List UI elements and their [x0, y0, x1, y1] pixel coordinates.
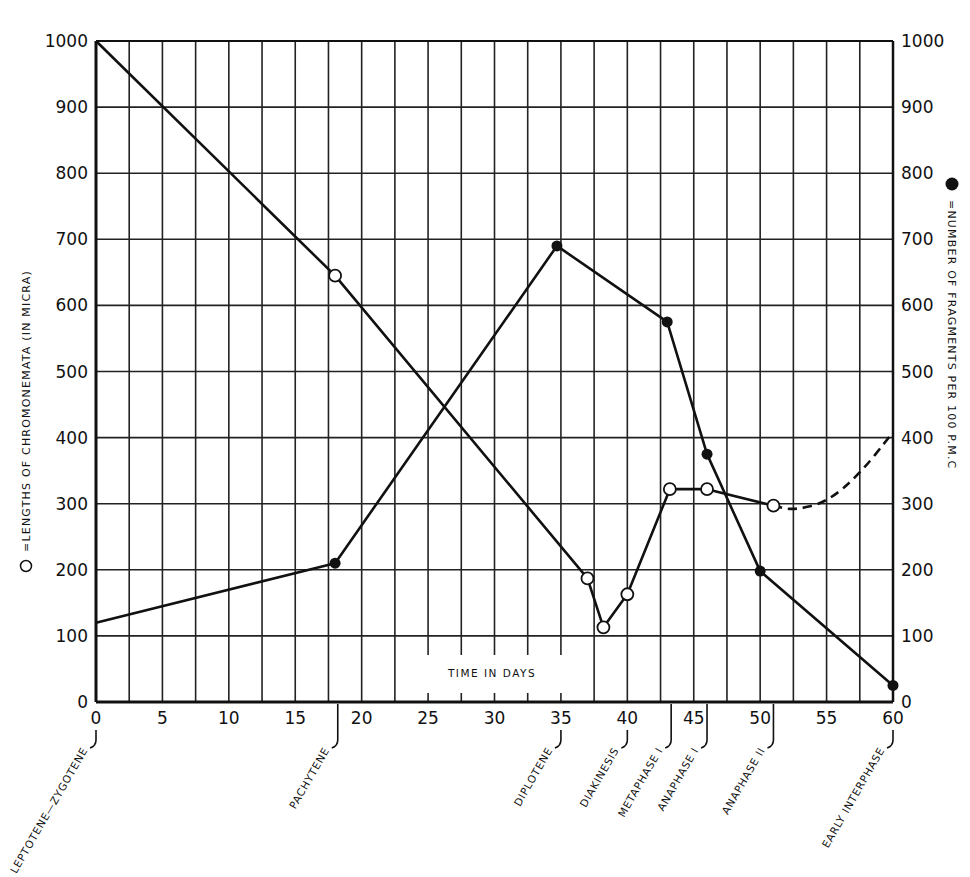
stage-leader-line [665, 704, 671, 748]
open-circle-point [621, 588, 633, 600]
grid-lines [96, 41, 893, 702]
stage-leader-line [887, 730, 893, 748]
open-circle-point [664, 483, 676, 495]
left-tick-label: 1000 [45, 31, 88, 51]
data-point-markers [329, 240, 898, 691]
filled-circle-point [888, 680, 899, 691]
x-axis-ticks: 051015202530354045505560 [91, 708, 904, 728]
x-tick-label: 10 [218, 708, 240, 728]
left-axis-title: =LENGTHS OF CHROMONEMATA (IN MICRA) [20, 270, 33, 552]
left-tick-label: 200 [56, 560, 88, 580]
x-tick-label: 5 [157, 708, 168, 728]
x-tick-label: 15 [284, 708, 306, 728]
stage-marker: DIPLOTENE [511, 730, 561, 808]
right-tick-label: 700 [901, 229, 933, 249]
right-y-axis-ticks: 01002003004005006007008009001000 [901, 31, 944, 712]
x-tick-label: 50 [749, 708, 771, 728]
right-axis-title-group: =NUMBER OF FRAGMENTS PER 100 P.M.C [945, 178, 959, 470]
open-circle-point [581, 572, 593, 584]
x-tick-label: 55 [816, 708, 838, 728]
left-tick-label: 600 [56, 295, 88, 315]
x-tick-label: 45 [683, 708, 705, 728]
stage-label: PACHYTENE [287, 745, 332, 811]
right-tick-label: 100 [901, 626, 933, 646]
stage-leader-line [621, 730, 627, 748]
right-tick-label: 1000 [901, 31, 944, 51]
filled-circle-point [755, 566, 766, 577]
right-tick-label: 800 [901, 163, 933, 183]
filled-circle-point [702, 449, 713, 460]
left-tick-label: 100 [56, 626, 88, 646]
x-tick-label: 30 [484, 708, 506, 728]
open-circle-point [701, 483, 713, 495]
open-circle-point [329, 270, 341, 282]
open-circle-point [597, 621, 609, 633]
x-tick-label: 20 [351, 708, 373, 728]
filled-circle-point [551, 240, 562, 251]
open-circle-point [767, 500, 779, 512]
stage-label: EARLY INTERPHASE [819, 745, 886, 850]
stage-leader-line [90, 730, 96, 748]
stage-label: ANAPHASE II [719, 745, 767, 816]
left-tick-label: 700 [56, 229, 88, 249]
filled-circle-point [330, 558, 341, 569]
filled-circle-legend-icon [946, 178, 959, 191]
right-tick-label: 400 [901, 428, 933, 448]
stage-leader-line [332, 704, 338, 748]
left-tick-label: 0 [77, 692, 88, 712]
x-tick-label: 60 [882, 708, 904, 728]
open-circle-legend-icon [21, 561, 32, 572]
left-tick-label: 400 [56, 428, 88, 448]
stage-label: DIPLOTENE [511, 745, 554, 808]
right-tick-label: 200 [901, 560, 933, 580]
x-axis-title: TIME IN DAYS [447, 667, 536, 679]
chromonemata-chart: 01002003004005006007008009001000 0100200… [0, 0, 970, 877]
right-axis-title: =NUMBER OF FRAGMENTS PER 100 P.M.C [945, 200, 958, 469]
right-tick-label: 500 [901, 362, 933, 382]
left-tick-label: 500 [56, 362, 88, 382]
left-axis-title-group: =LENGTHS OF CHROMONEMATA (IN MICRA) [20, 270, 33, 571]
chromonemata-length-dashed-extension [773, 432, 893, 509]
right-tick-label: 300 [901, 494, 933, 514]
filled-circle-point [662, 316, 673, 327]
left-tick-label: 800 [56, 163, 88, 183]
stage-marker: EARLY INTERPHASE [819, 730, 893, 850]
x-tick-label: 25 [417, 708, 439, 728]
stage-marker: DIAKINESIS [577, 730, 627, 809]
stage-labels: LEPTOTENE—ZYGOTENEPACHYTENEDIPLOTENEDIAK… [8, 704, 893, 875]
x-tick-label: 40 [617, 708, 639, 728]
stage-label: DIAKINESIS [577, 745, 621, 809]
stage-label: LEPTOTENE—ZYGOTENE [8, 745, 90, 875]
stage-leader-line [555, 730, 561, 748]
x-tick-label: 35 [550, 708, 572, 728]
left-tick-label: 900 [56, 97, 88, 117]
left-tick-label: 300 [56, 494, 88, 514]
stage-marker: LEPTOTENE—ZYGOTENE [8, 730, 96, 875]
right-tick-label: 900 [901, 97, 933, 117]
x-tick-label: 0 [91, 708, 102, 728]
left-y-axis-ticks: 01002003004005006007008009001000 [45, 31, 88, 712]
right-tick-label: 600 [901, 295, 933, 315]
